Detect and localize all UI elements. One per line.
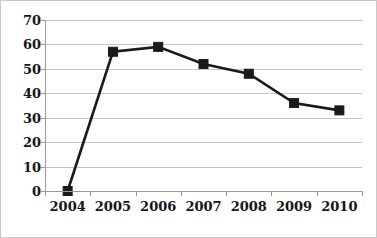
x-tick-mark-0 [45, 191, 46, 196]
y-axis-line [45, 20, 46, 191]
y-tick-mark-70 [41, 20, 46, 21]
y-tick-label-20: 20 [3, 136, 41, 149]
plot-area [45, 20, 362, 191]
y-tick-mark-30 [41, 118, 46, 119]
x-tick-label-2008: 2008 [231, 200, 267, 213]
x-tick-mark-2 [136, 191, 137, 196]
y-tick-mark-40 [41, 93, 46, 94]
y-tick-label-40: 40 [3, 87, 41, 100]
x-axis-tick-labels: 2004200520062007200820092010 [45, 200, 362, 224]
x-tick-mark-4 [226, 191, 227, 196]
x-tick-label-2006: 2006 [140, 200, 176, 213]
x-tick-mark-5 [271, 191, 272, 196]
y-tick-label-50: 50 [3, 62, 41, 75]
series-markers [63, 42, 344, 195]
x-tick-mark-3 [181, 191, 182, 196]
x-tick-label-2009: 2009 [276, 200, 312, 213]
x-tick-label-2005: 2005 [95, 200, 131, 213]
x-tick-mark-6 [317, 191, 318, 196]
x-tick-label-2004: 2004 [50, 200, 86, 213]
data-point-2008 [244, 69, 253, 78]
y-axis-tick-labels: 010203040506070 [1, 1, 41, 238]
data-point-2009 [290, 99, 299, 108]
x-tick-label-2007: 2007 [185, 200, 221, 213]
chart-container: 010203040506070 200420052006200720082009… [0, 0, 377, 238]
y-tick-label-60: 60 [3, 38, 41, 51]
x-tick-label-2010: 2010 [321, 200, 357, 213]
series-line-chart [45, 20, 362, 191]
y-tick-label-70: 70 [3, 14, 41, 27]
data-point-2007 [199, 59, 208, 68]
y-tick-mark-60 [41, 44, 46, 45]
data-point-2010 [335, 106, 344, 115]
data-point-2005 [108, 47, 117, 56]
x-axis-line [45, 191, 362, 192]
y-tick-mark-20 [41, 142, 46, 143]
y-tick-label-10: 10 [3, 160, 41, 173]
data-point-2006 [154, 42, 163, 51]
x-tick-mark-7 [362, 191, 363, 196]
y-tick-mark-10 [41, 167, 46, 168]
y-tick-mark-50 [41, 69, 46, 70]
x-tick-mark-1 [90, 191, 91, 196]
y-tick-label-30: 30 [3, 111, 41, 124]
y-tick-label-0: 0 [3, 185, 41, 198]
